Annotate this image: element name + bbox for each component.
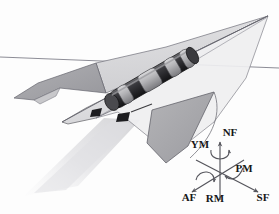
axis-label-ym: YM bbox=[191, 138, 210, 150]
aircraft-force-moment-illustration: NF YM PM AF RM SF bbox=[0, 0, 279, 214]
axis-label-pm: PM bbox=[235, 162, 253, 174]
axis-label-af: AF bbox=[182, 191, 197, 203]
axis-label-sf: SF bbox=[257, 191, 270, 203]
figure-container: NF YM PM AF RM SF bbox=[0, 0, 279, 214]
axis-label-rm: RM bbox=[206, 192, 225, 204]
axis-label-nf: NF bbox=[223, 126, 238, 138]
